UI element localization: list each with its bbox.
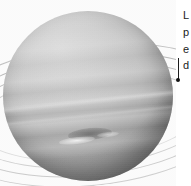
- neptune-image-plate: [0, 0, 176, 186]
- southern-band: [3, 102, 173, 129]
- caption-line-2: p: [183, 27, 189, 38]
- caption-line-3: e: [183, 44, 189, 55]
- equatorial-band: [3, 87, 173, 116]
- planet-disk: [3, 11, 173, 181]
- limb-darkening: [3, 11, 173, 181]
- bright-cloud-streak-secondary: [96, 131, 118, 138]
- bright-cloud-streak: [59, 135, 96, 146]
- screenshot-root: L p e d: [0, 0, 191, 186]
- caption-column: L p e d: [176, 0, 191, 100]
- caption-line-1: L: [183, 10, 189, 21]
- annotation-leader-line: [178, 58, 179, 80]
- annotation-leader-dot: [176, 78, 180, 82]
- dark-spot-feature: [67, 126, 112, 142]
- caption-line-4: d: [183, 60, 189, 71]
- cloud-bands: [3, 11, 173, 181]
